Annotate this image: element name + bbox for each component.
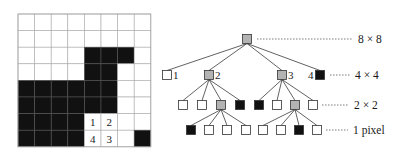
- tree-node-white: [309, 101, 318, 110]
- grid-cell-r0-c3: [68, 14, 85, 31]
- grid-cell-r0-c6: [118, 14, 135, 31]
- grid-cell-r5-c1: [35, 97, 52, 114]
- grid-cell-r5-c3: [68, 97, 85, 114]
- grid-cell-r4-c3: [68, 80, 85, 97]
- grid-cell-r2-c0: [18, 47, 35, 64]
- tree-edge: [263, 110, 295, 126]
- grid-cell-r1-c4: [84, 31, 101, 48]
- tree-edge: [247, 44, 282, 71]
- tree-node-white: [277, 126, 286, 135]
- grid-cell-r4-c5: [101, 80, 118, 97]
- grid-cell-r6-c0: [18, 114, 35, 131]
- level-label-level2: 2 × 2: [354, 99, 378, 111]
- tree-node-black: [255, 101, 264, 110]
- tree-node-white: [242, 126, 251, 135]
- grid-cell-r3-c4: [84, 64, 101, 81]
- grid-cell-r4-c1: [35, 80, 52, 97]
- level-label-root: 8 × 8: [358, 33, 382, 45]
- grid-cell-r4-c4: [84, 80, 101, 97]
- grid-cell-r0-c4: [84, 14, 101, 31]
- grid-cell-r0-c7: [134, 14, 151, 31]
- grid-cell-r5-c4: [84, 97, 101, 114]
- tree-edge: [221, 110, 246, 126]
- grid-cell-r1-c7: [134, 31, 151, 48]
- grid-cell-r2-c6: [118, 47, 135, 64]
- grid-cell-r0-c1: [35, 14, 52, 31]
- cell-quadrant-label: 4: [90, 133, 96, 145]
- grid-cell-r0-c2: [51, 14, 68, 31]
- grid-cell-r7-c7: [134, 130, 151, 147]
- tree-node-gray: [243, 35, 252, 44]
- cell-quadrant-label: 2: [107, 116, 113, 128]
- grid-cell-r3-c2: [51, 64, 68, 81]
- grid-cell-r7-c6: [118, 130, 135, 147]
- grid-cell-r1-c5: [101, 31, 118, 48]
- tree-edge: [191, 110, 221, 126]
- tree-node-white: [179, 101, 188, 110]
- quadrant-number-label: 1: [173, 69, 179, 81]
- grid-cell-r7-c1: [35, 130, 52, 147]
- tree-node-white: [273, 101, 282, 110]
- tree-node-white: [313, 126, 322, 135]
- grid-cell-r7-c3: [68, 130, 85, 147]
- grid-cell-r3-c7: [134, 64, 151, 81]
- grid-cell-r4-c2: [51, 80, 68, 97]
- grid-cell-r5-c2: [51, 97, 68, 114]
- grid-cell-r4-c6: [118, 80, 135, 97]
- quadrant-number-label: 3: [288, 69, 294, 81]
- tree-edge: [259, 80, 282, 101]
- tree-node-white: [205, 126, 214, 135]
- grid-cell-r4-c7: [134, 80, 151, 97]
- tree-edge: [221, 110, 227, 126]
- binary-image-grid: 1234: [18, 14, 151, 147]
- grid-cell-r6-c2: [51, 114, 68, 131]
- grid-cell-r2-c4: [84, 47, 101, 64]
- grid-cell-r2-c5: [101, 47, 118, 64]
- grid-cell-r5-c7: [134, 97, 151, 114]
- tree-node-black: [316, 71, 325, 80]
- grid-cell-r2-c7: [134, 47, 151, 64]
- grid-cell-r1-c2: [51, 31, 68, 48]
- tree-edge: [209, 80, 221, 101]
- tree-edge: [282, 80, 313, 101]
- grid-cell-r3-c5: [101, 64, 118, 81]
- grid-cell-r5-c5: [101, 97, 118, 114]
- quadtree-diagram: 1234 1234 8 × 84 × 42 × 21 pixel: [0, 0, 397, 161]
- grid-cell-r5-c6: [118, 97, 135, 114]
- tree-node-black: [236, 101, 245, 110]
- tree-node-white: [198, 101, 207, 110]
- tree-edge: [209, 110, 221, 126]
- cell-quadrant-label: 3: [107, 133, 113, 145]
- level-label-level3: 1 pixel: [353, 124, 385, 137]
- tree-edge: [167, 44, 247, 71]
- grid-cell-r2-c3: [68, 47, 85, 64]
- tree-node-gray: [217, 101, 226, 110]
- grid-cell-r6-c3: [68, 114, 85, 131]
- tree-node-gray: [291, 101, 300, 110]
- tree-edge: [277, 80, 282, 101]
- tree-edge: [282, 80, 295, 101]
- tree-node-black: [187, 126, 196, 135]
- quadtree-figure: 1234 1234 8 × 84 × 42 × 21 pixel: [0, 0, 397, 161]
- quadrant-number-label: 2: [215, 69, 221, 81]
- tree-node-white: [223, 126, 232, 135]
- tree-nodes: 1234: [163, 35, 325, 135]
- grid-cell-r6-c6: [118, 114, 135, 131]
- level-label-level1: 4 × 4: [355, 69, 379, 81]
- tree-edges: [167, 44, 320, 126]
- grid-cell-r2-c2: [51, 47, 68, 64]
- grid-cell-r4-c0: [18, 80, 35, 97]
- grid-cell-r0-c0: [18, 14, 35, 31]
- tree-edge: [209, 44, 247, 71]
- grid-cell-r3-c3: [68, 64, 85, 81]
- tree-node-white: [163, 71, 172, 80]
- grid-cell-r1-c3: [68, 31, 85, 48]
- grid-cell-r1-c6: [118, 31, 135, 48]
- grid-cell-r5-c0: [18, 97, 35, 114]
- grid-cell-r3-c1: [35, 64, 52, 81]
- tree-node-black: [295, 126, 304, 135]
- tree-edge: [247, 44, 320, 71]
- tree-node-white: [259, 126, 268, 135]
- grid-cell-r7-c0: [18, 130, 35, 147]
- cell-quadrant-label: 1: [90, 116, 96, 128]
